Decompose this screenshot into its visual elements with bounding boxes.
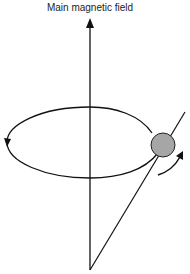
precession-diagram: Main magnetic field [0, 0, 190, 274]
orbit-arrowhead-icon [4, 138, 11, 147]
diagram-svg [0, 0, 190, 274]
precession-orbit [4, 107, 158, 178]
spin-particle [151, 133, 175, 157]
field-axis-arrow [86, 18, 94, 270]
arrowhead-up-icon [86, 18, 94, 28]
